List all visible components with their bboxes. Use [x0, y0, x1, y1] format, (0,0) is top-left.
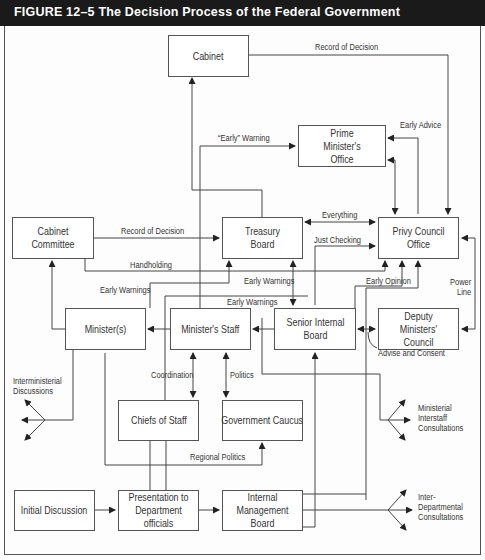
node-label: Senior Internal Board — [283, 316, 347, 342]
label-just-checking: Just Checking — [314, 235, 361, 245]
label-coordination: Coordination — [151, 370, 193, 380]
label-record-of-decision-cc: Record of Decision — [121, 226, 184, 236]
node-internal-management-board: Internal Management Board — [222, 490, 303, 531]
node-ministers-staff: Minister's Staff — [170, 308, 251, 350]
node-label: Cabinet Committee — [28, 225, 79, 251]
node-prime-ministers-office: Prime Minister's Office — [298, 125, 386, 167]
node-label: Minister's Staff — [181, 323, 239, 336]
label-early-warnings-2: Early Warnings — [244, 276, 294, 286]
connector-lines — [0, 0, 485, 560]
node-ministers: Minister(s) — [65, 308, 146, 350]
node-presentation-to-department-officials: Presentation to Department officials — [118, 490, 199, 531]
label-interministerial-discussions: Interministerial Discussions — [13, 376, 75, 396]
node-privy-council-office: Privy Council Office — [378, 217, 459, 259]
label-early-advice: Early Advice — [400, 120, 441, 130]
node-senior-internal-board: Senior Internal Board — [274, 308, 356, 350]
node-cabinet: Cabinet — [168, 35, 249, 77]
label-advise-and-consent: Advise and Consent — [378, 348, 445, 358]
node-cabinet-committee: Cabinet Committee — [12, 217, 94, 259]
label-early-warnings-3: Early Warnings — [227, 297, 277, 307]
node-treasury-board: Treasury Board — [222, 217, 303, 259]
label-power-line: Power Line — [450, 277, 471, 297]
node-label: Privy Council Office — [387, 225, 451, 251]
label-everything: Everything — [322, 210, 357, 220]
label-record-of-decision-top: Record of Decision — [315, 42, 378, 52]
node-label: Internal Management Board — [229, 491, 296, 530]
label-interdepartmental-consultations: Inter-Departmental Consultations — [418, 492, 460, 522]
label-early-opinion: Early Opinion — [366, 276, 411, 286]
node-government-caucus: Government Caucus — [222, 400, 303, 441]
label-regional-politics: Regional Politics — [190, 452, 245, 462]
node-label: Government Caucus — [222, 414, 304, 427]
node-label: Initial Discussion — [21, 504, 87, 517]
label-ministerial-interstaff-consultations: Ministerial Interstaff Consultations — [418, 403, 466, 433]
node-label: Deputy Ministers' Council — [385, 310, 452, 349]
node-deputy-ministers-council: Deputy Ministers' Council — [378, 308, 459, 350]
node-label: Treasury Board — [239, 225, 286, 251]
node-label: Presentation to Department officials — [125, 491, 192, 530]
node-label: Minister(s) — [85, 323, 127, 336]
node-label: Prime Minister's Office — [312, 127, 372, 166]
node-label: Cabinet — [193, 50, 224, 63]
node-chiefs-of-staff: Chiefs of Staff — [118, 400, 199, 441]
node-label: Chiefs of Staff — [131, 414, 187, 427]
node-initial-discussion: Initial Discussion — [14, 490, 95, 531]
label-politics: Politics — [230, 370, 254, 380]
label-handholding: Handholding — [130, 260, 172, 270]
label-early-warning: “Early” Warning — [218, 133, 270, 143]
label-early-warnings-1: Early Warnings — [100, 285, 150, 295]
